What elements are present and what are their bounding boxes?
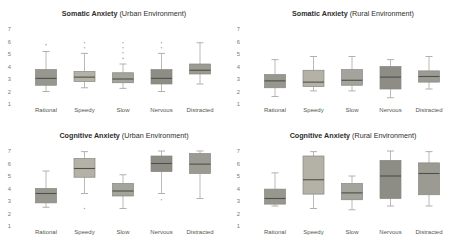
y-tick-label: 4 <box>8 185 12 191</box>
x-category-label: Rational <box>264 107 286 113</box>
y-tick-label: 1 <box>237 101 240 107</box>
x-category-label: Speedy <box>74 107 94 113</box>
x-category-label: Nervous <box>150 229 172 235</box>
x-category-label: Speedy <box>74 229 94 235</box>
panel-title-bold: Cognitive Anxiety <box>59 131 121 140</box>
boxplot-somatic-rural: Somatic Anxiety (Rural Environment)12345… <box>229 0 458 122</box>
boxplot-cognitive-rural: Cognitive Anxiety (Rural Environment)123… <box>229 122 458 243</box>
y-tick-label: 7 <box>237 26 240 32</box>
box <box>36 188 57 202</box>
panel-title-rest: (Rural Environment) <box>352 131 416 140</box>
panel-title: Cognitive Anxiety (Rural Environment) <box>290 131 417 140</box>
x-category-label: Nervous <box>379 107 401 113</box>
x-category-label: Rational <box>35 107 57 113</box>
box <box>74 72 95 82</box>
x-category-label: Slow <box>345 229 359 235</box>
x-category-label: Distracted <box>415 229 442 235</box>
panel-title: Somatic Anxiety (Rural Environment) <box>292 9 414 18</box>
y-tick-label: 1 <box>8 101 11 107</box>
y-tick-label: 2 <box>8 210 11 216</box>
box <box>113 183 134 196</box>
y-tick-label: 6 <box>237 39 240 45</box>
y-tick-label: 5 <box>237 173 240 179</box>
y-tick-label: 3 <box>237 76 240 82</box>
outlier-dot <box>122 42 124 44</box>
y-tick-label: 6 <box>237 160 240 166</box>
y-tick-label: 5 <box>8 173 11 179</box>
y-tick-label: 3 <box>8 198 11 204</box>
outlier-dot <box>122 58 124 60</box>
x-category-label: Distracted <box>415 107 442 113</box>
box <box>74 158 95 177</box>
box <box>303 70 324 86</box>
y-tick-label: 3 <box>8 76 11 82</box>
y-tick-label: 5 <box>237 51 240 57</box>
outlier-dot <box>84 47 86 49</box>
y-tick-label: 7 <box>8 148 11 154</box>
panel-title: Cognitive Anxiety (Urban Environment) <box>59 131 188 140</box>
box <box>190 64 211 74</box>
box <box>151 70 172 84</box>
x-category-label: Rational <box>35 229 57 235</box>
outlier-dot <box>122 47 124 49</box>
boxplot-somatic-urban: Somatic Anxiety (Urban Environment)12345… <box>0 0 229 122</box>
panel-title-bold: Somatic Anxiety <box>62 9 120 18</box>
box <box>265 189 286 204</box>
y-tick-label: 7 <box>8 26 11 32</box>
outlier-dot <box>84 42 86 44</box>
outlier-dot <box>161 42 163 44</box>
outlier-dot <box>161 47 163 49</box>
x-category-label: Slow <box>345 107 359 113</box>
outlier-dot <box>122 52 124 54</box>
box <box>190 153 211 173</box>
y-tick-label: 4 <box>237 64 241 70</box>
panel-title: Somatic Anxiety (Urban Environment) <box>62 9 186 18</box>
outlier-dot <box>84 207 86 209</box>
box <box>342 183 363 199</box>
y-tick-label: 4 <box>237 185 241 191</box>
y-tick-label: 2 <box>237 210 240 216</box>
x-category-label: Slow <box>116 107 130 113</box>
panel-title-rest: (Urban Environment) <box>119 9 186 18</box>
y-tick-label: 5 <box>8 51 11 57</box>
y-tick-label: 2 <box>237 89 240 95</box>
y-tick-label: 6 <box>8 39 11 45</box>
panel-title-bold: Cognitive Anxiety <box>290 131 352 140</box>
boxplot-cognitive-urban: Cognitive Anxiety (Urban Environment)123… <box>0 122 229 243</box>
box <box>419 162 440 194</box>
box <box>36 70 57 86</box>
x-category-label: Slow <box>116 229 130 235</box>
outlier-dot <box>161 198 163 200</box>
x-category-label: Distracted <box>186 107 213 113</box>
x-category-label: Speedy <box>303 107 323 113</box>
y-tick-label: 1 <box>8 223 11 229</box>
box <box>380 160 401 198</box>
x-category-label: Rational <box>264 229 286 235</box>
x-category-label: Nervous <box>150 107 172 113</box>
box <box>113 73 134 83</box>
box <box>303 156 324 194</box>
x-category-label: Distracted <box>186 229 213 235</box>
box <box>342 70 363 86</box>
panel-title-rest: (Rural Environment) <box>350 9 414 18</box>
boxplot-figure-grid: Somatic Anxiety (Urban Environment)12345… <box>0 0 458 243</box>
y-tick-label: 2 <box>8 89 11 95</box>
panel-title-rest: (Urban Environment) <box>122 131 189 140</box>
y-tick-label: 4 <box>8 64 12 70</box>
panel-title-bold: Somatic Anxiety <box>292 9 350 18</box>
y-tick-label: 6 <box>8 160 11 166</box>
y-tick-label: 1 <box>237 223 240 229</box>
outlier-dot <box>45 44 47 46</box>
x-category-label: Speedy <box>303 229 323 235</box>
box <box>380 67 401 90</box>
y-tick-label: 7 <box>237 148 240 154</box>
y-tick-label: 3 <box>237 198 240 204</box>
x-category-label: Nervous <box>379 229 401 235</box>
